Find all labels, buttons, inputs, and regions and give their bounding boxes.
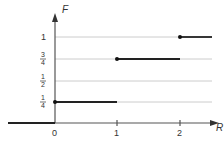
svg-text:3: 3 (41, 51, 45, 58)
y-axis-label: F (62, 4, 69, 15)
svg-text:4: 4 (41, 102, 45, 109)
svg-text:1: 1 (41, 73, 45, 80)
point-1-3-4 (115, 57, 119, 61)
axes (55, 18, 213, 126)
step-segments (8, 37, 212, 123)
x-axis-label: R (216, 122, 223, 133)
svg-text:2: 2 (41, 81, 45, 88)
cdf-step-chart: F R 0 1 2 1 3 4 1 2 1 4 (0, 0, 224, 143)
x-tick-label-2: 2 (177, 128, 182, 138)
x-tick-label-0: 0 (52, 128, 57, 138)
jump-points (53, 35, 182, 104)
y-tick-label-1: 1 (41, 32, 46, 42)
svg-text:1: 1 (41, 94, 45, 101)
y-tick-label-1-4: 1 4 (40, 94, 46, 109)
y-tick-label-1-2: 1 2 (40, 73, 46, 88)
svg-text:4: 4 (41, 59, 45, 66)
y-axis-arrow-icon (52, 13, 58, 22)
gridlines (55, 37, 212, 102)
y-tick-label-3-4: 3 4 (40, 51, 46, 66)
point-2-1 (178, 35, 182, 39)
point-0-1-4 (53, 100, 57, 104)
x-tick-label-1: 1 (114, 128, 119, 138)
